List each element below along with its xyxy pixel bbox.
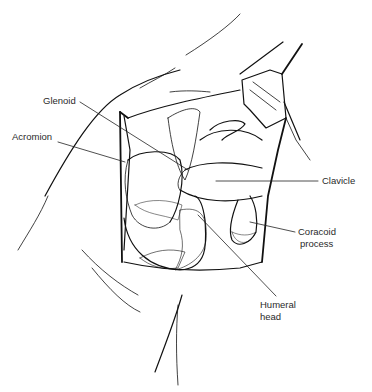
label-humeral-line2: head <box>260 311 281 323</box>
shoulder-anatomy-illustration <box>0 0 372 392</box>
coracoid-structure <box>230 196 256 244</box>
acromion-structure <box>125 152 182 228</box>
humeral-head-structure <box>124 196 206 270</box>
glenoid-leader <box>80 102 188 170</box>
glenoid-structure <box>168 109 200 180</box>
retractor <box>240 42 310 160</box>
label-coracoid-line1: Coracoid <box>298 226 336 238</box>
label-leaders <box>58 102 318 296</box>
label-glenoid: Glenoid <box>43 95 76 107</box>
label-humeral-line1: Humeral <box>260 299 296 311</box>
label-clavicle: Clavicle <box>322 175 355 187</box>
acromion-leader <box>58 142 125 162</box>
label-coracoid-line2: process <box>300 238 333 250</box>
label-acromion: Acromion <box>12 131 52 143</box>
incision-frame <box>120 90 286 270</box>
clavicle-structure <box>178 121 262 201</box>
